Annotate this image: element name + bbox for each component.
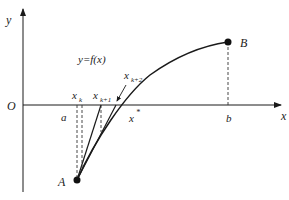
point-B-label: B [240,36,248,50]
x-axis-label: x [280,109,287,123]
newton-method-diagram: y x O y=f(x) A B a b x * x k x k+1 x k+2 [0,0,289,200]
svg-text:x: x [92,89,98,101]
tangent-line-xk1 [77,105,101,180]
svg-text:k: k [79,96,83,104]
xk1-label: x k+1 [92,89,111,104]
y-axis-label: y [5,13,12,27]
svg-text:k+2: k+2 [131,76,143,84]
curve-label: y=f(x) [77,53,106,66]
point-B [225,39,232,46]
tick-b-label: b [226,112,232,124]
tangent-line-xk2 [77,105,116,180]
svg-text:k+1: k+1 [100,96,111,104]
svg-text:x: x [128,112,134,124]
xk-label: x k [71,89,83,104]
x-star-label: x * [128,108,140,124]
xk2-label: x k+2 [123,69,143,84]
svg-text:x: x [123,69,129,81]
svg-text:*: * [136,108,140,117]
xk2-pointer-arrow [117,85,126,101]
origin-label: O [7,99,16,113]
point-A-label: A [57,175,66,189]
point-A [74,177,81,184]
svg-text:x: x [71,89,77,101]
tick-a-label: a [61,111,67,123]
